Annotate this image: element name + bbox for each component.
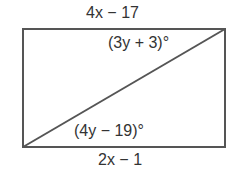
bottom-left-angle-label: (4y − 19)° xyxy=(74,122,144,140)
rectangle-diagram xyxy=(0,0,234,176)
top-right-angle-label: (3y + 3)° xyxy=(108,34,169,52)
top-side-label: 4x − 17 xyxy=(86,4,139,22)
bottom-side-label: 2x − 1 xyxy=(98,151,142,169)
